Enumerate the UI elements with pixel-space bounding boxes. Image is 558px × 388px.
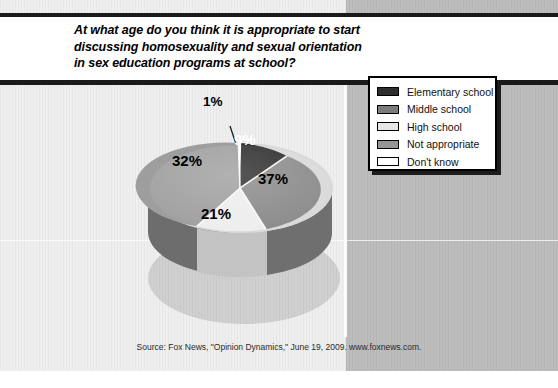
chart-title: At what age do you think it is appropria… [74, 22, 414, 72]
legend-item-middle-school: Middle school [377, 101, 495, 118]
chart-title-line-2: discussing homosexuality and sexual orie… [74, 39, 414, 56]
pie-wall-high-school [197, 228, 267, 277]
legend-swatch-icon [377, 87, 399, 96]
background-strip-bottom [0, 371, 558, 388]
infographic-root: At what age do you think it is appropria… [0, 0, 558, 388]
value-label-elementary: 9% [234, 131, 256, 148]
source-note: Source: Fox News, "Opinion Dynamics," Ju… [0, 342, 558, 352]
legend-swatch-icon [377, 122, 399, 131]
value-label-middle-school: 37% [258, 170, 288, 187]
value-label-dont-know: 1% [203, 94, 223, 109]
legend-item-label: Elementary school [407, 86, 493, 98]
chart-title-line-1: At what age do you think it is appropria… [74, 22, 414, 39]
legend: Elementary school Middle school High sch… [368, 76, 497, 171]
chart-title-line-3: in sex education programs at school? [74, 55, 414, 72]
legend-item-label: Don't know [407, 156, 459, 168]
legend-item-label: Middle school [407, 103, 471, 115]
value-label-high-school: 21% [201, 205, 231, 222]
legend-item-dont-know: Don't know [377, 153, 495, 170]
legend-item-not-appropriate: Not appropriate [377, 136, 495, 153]
legend-item-elementary-school: Elementary school [377, 83, 495, 100]
legend-swatch-icon [377, 157, 399, 166]
legend-item-label: High school [407, 121, 462, 133]
legend-item-label: Not appropriate [407, 138, 479, 150]
legend-swatch-icon [377, 140, 399, 149]
legend-swatch-icon [377, 105, 399, 114]
legend-item-high-school: High school [377, 118, 495, 135]
value-label-not-appropriate: 32% [172, 152, 202, 169]
